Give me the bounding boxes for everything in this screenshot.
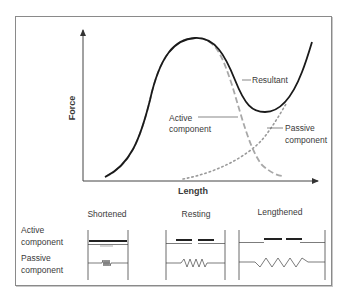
passive-spring-shortened: [88, 260, 128, 266]
sarcomere-shortened: [88, 230, 128, 280]
active-label-2: component: [169, 124, 212, 134]
sarcomere-lengthened: [239, 230, 325, 280]
state-label-shortened: Shortened: [87, 209, 126, 219]
muscle-length-tension-diagram: Force Length Resultant Active component …: [0, 0, 347, 299]
row-label-active-1: Active: [21, 225, 44, 235]
passive-label-1: Passive: [285, 123, 315, 133]
active-filaments-lengthened: [239, 239, 325, 243]
active-curve: [105, 38, 282, 177]
row-label-passive-2: component: [21, 265, 64, 275]
y-axis-label: Force: [67, 96, 77, 121]
passive-curve: [183, 104, 286, 179]
passive-spring-resting: [166, 259, 225, 267]
state-label-resting: Resting: [182, 209, 211, 219]
passive-spring-lengthened: [239, 258, 325, 267]
sarcomere-resting: [166, 230, 225, 280]
active-filaments-shortened: [88, 241, 128, 246]
resultant-label: Resultant: [252, 75, 289, 85]
active-filaments-resting: [166, 240, 225, 244]
active-label-1: Active: [169, 113, 192, 123]
row-label-active-2: component: [21, 237, 64, 247]
passive-label-2: component: [285, 135, 328, 145]
x-axis-label: Length: [178, 186, 208, 196]
state-label-lengthened: Lengthened: [258, 207, 303, 217]
row-label-passive-1: Passive: [21, 253, 51, 263]
resultant-curve: [105, 38, 312, 177]
